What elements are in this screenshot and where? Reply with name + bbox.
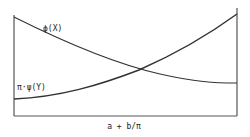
label-phi-x: ϕ(X) xyxy=(43,24,62,33)
label-pi-psi-y: π·ψ(Y) xyxy=(17,83,46,92)
x-axis-label: a + b/π xyxy=(107,122,141,131)
diagram-canvas: ϕ(X) π·ψ(Y) a + b/π xyxy=(0,0,250,137)
